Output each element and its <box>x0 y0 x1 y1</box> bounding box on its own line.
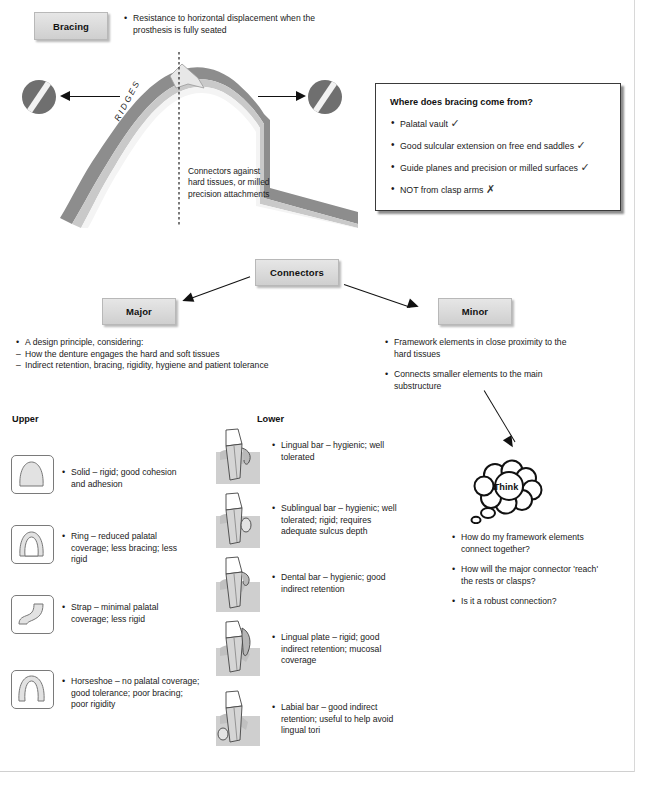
think-question: How do my framework elements connect tog… <box>452 532 612 555</box>
bracing-card-title: Where does bracing come from? <box>390 97 608 107</box>
major-label-box[interactable]: Major <box>102 298 176 325</box>
lower-item-label: Dental bar – hygienic; good indirect ret… <box>272 572 397 595</box>
tooth-lingual-plate-icon <box>216 620 260 676</box>
page-bottom-border <box>0 771 634 772</box>
check-icon: ✓ <box>580 161 589 173</box>
tooth-sublingual-bar-icon <box>216 492 260 548</box>
shaded-disc-icon-right <box>308 80 342 114</box>
think-cloud-label: Think <box>462 458 550 524</box>
ring-palate-icon <box>11 525 54 564</box>
bracing-card-item-text: Good sulcular extension on free end sadd… <box>400 141 574 151</box>
minor-bullet: Connects smaller elements to the main su… <box>385 369 580 392</box>
upper-item-label: Ring – reduced palatal coverage; less br… <box>62 531 192 566</box>
bracing-definition: Resistance to horizontal displacement wh… <box>124 13 339 36</box>
bracing-card-item-text: NOT from clasp arms <box>400 185 483 195</box>
bracing-source-card: Where does bracing come from? Palatal va… <box>375 83 621 211</box>
upper-item-text: Strap – minimal palatal coverage; less r… <box>62 602 192 625</box>
minor-label-box[interactable]: Minor <box>438 298 512 325</box>
bracing-card-item: NOT from clasp arms ✗ <box>390 184 608 196</box>
bracing-arrow-right-head <box>296 91 306 101</box>
upper-item-text: Horseshoe – no palatal coverage; good to… <box>62 676 202 711</box>
page-right-border <box>634 0 635 772</box>
lower-item-label: Sublingual bar – hygienic; well tolerate… <box>272 503 404 538</box>
connectors-note-text: Connectors against hard tissues, or mill… <box>188 166 269 199</box>
connectors-to-minor-arrow-shaft <box>344 284 411 308</box>
connectors-label-text: Connectors <box>270 267 324 278</box>
slide-page: Bracing Resistance to horizontal displac… <box>0 0 645 785</box>
check-icon: ✓ <box>577 139 586 151</box>
connectors-label-box[interactable]: Connectors <box>255 259 339 286</box>
lower-item-label: Labial bar – good indirect retention; us… <box>272 702 400 737</box>
bracing-card-item: Good sulcular extension on free end sadd… <box>390 140 608 152</box>
upper-item-text: Ring – reduced palatal coverage; less br… <box>62 531 192 566</box>
major-label-text: Major <box>126 306 152 317</box>
tooth-labial-bar-icon <box>216 690 260 746</box>
solid-palate-icon <box>11 455 54 494</box>
bracing-card-item: Palatal vault ✓ <box>390 118 608 130</box>
upper-item-text: Solid – rigid; good cohesion and adhesio… <box>62 467 192 490</box>
think-cloud: Think <box>462 458 550 524</box>
upper-heading: Upper <box>12 414 39 424</box>
cross-icon: ✗ <box>486 183 495 195</box>
lower-item-text: Lingual plate – rigid; good indirect ret… <box>272 632 397 667</box>
shaded-disc-icon-left <box>22 80 56 114</box>
bracing-arrow-right-shaft <box>258 96 300 97</box>
lower-heading: Lower <box>257 414 284 424</box>
minor-bullet: Framework elements in close proximity to… <box>385 337 580 360</box>
bracing-label-box[interactable]: Bracing <box>34 12 108 40</box>
connectors-to-minor-arrow-head <box>407 298 421 311</box>
upper-item-label: Solid – rigid; good cohesion and adhesio… <box>62 467 192 490</box>
lower-item-text: Dental bar – hygienic; good indirect ret… <box>272 572 397 595</box>
bracing-card-item: Guide planes and precision or milled sur… <box>390 162 608 174</box>
bracing-definition-text: Resistance to horizontal displacement wh… <box>124 13 339 36</box>
lower-item-text: Labial bar – good indirect retention; us… <box>272 702 400 737</box>
check-icon: ✓ <box>450 117 459 129</box>
lower-item-label: Lingual plate – rigid; good indirect ret… <box>272 632 397 667</box>
bracing-arrow-left-head <box>60 91 70 101</box>
bracing-card-item-text: Palatal vault <box>400 119 448 129</box>
strap-palate-icon <box>11 595 54 634</box>
major-bullet: A design principle, considering: <box>16 337 282 349</box>
minor-connector-bullets: Framework elements in close proximity to… <box>385 337 580 392</box>
lower-item-label: Lingual bar – hygienic; well tolerated <box>272 440 397 463</box>
upper-item-label: Horseshoe – no palatal coverage; good to… <box>62 676 202 711</box>
connectors-to-major-arrow-shaft <box>187 276 250 300</box>
tooth-dental-bar-icon <box>216 556 260 612</box>
minor-label-text: Minor <box>462 306 488 317</box>
think-question: How will the major connector 'reach' the… <box>452 564 612 587</box>
upper-item-label: Strap – minimal palatal coverage; less r… <box>62 602 192 625</box>
bracing-label-text: Bracing <box>53 21 89 32</box>
bracing-arrow-left-shaft <box>68 96 120 97</box>
minor-to-think-arrow-head <box>503 435 517 450</box>
connectors-to-major-arrow-head <box>181 292 195 305</box>
think-questions: How do my framework elements connect tog… <box>452 532 612 608</box>
think-question: Is it a robust connection? <box>452 596 612 608</box>
lower-item-text: Lingual bar – hygienic; well tolerated <box>272 440 397 463</box>
major-bullet: Indirect retention, bracing, rigidity, h… <box>16 360 282 372</box>
tooth-lingual-bar-icon <box>216 428 260 484</box>
ridge-diagram <box>58 48 358 228</box>
major-bullet: How the denture engages the hard and sof… <box>16 349 282 361</box>
horseshoe-palate-icon <box>11 670 54 709</box>
bracing-card-item-text: Guide planes and precision or milled sur… <box>400 163 578 173</box>
lower-item-text: Sublingual bar – hygienic; well tolerate… <box>272 503 404 538</box>
major-connector-bullets: A design principle, considering: How the… <box>16 337 282 372</box>
connectors-hard-tissue-note: Connectors against hard tissues, or mill… <box>188 166 276 200</box>
